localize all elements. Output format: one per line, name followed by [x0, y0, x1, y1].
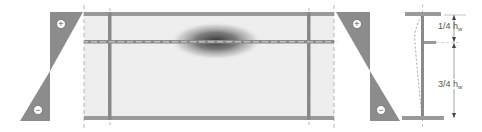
dimension-upper: 1/4 hw: [438, 15, 466, 42]
minus-sign-icon: −: [34, 105, 43, 115]
svg-text:+: +: [354, 19, 359, 29]
dimension-lower: 3/4 hw: [437, 43, 465, 118]
section-top-flange: [405, 12, 441, 16]
girder-diagram: + − + −: [0, 0, 482, 132]
web-panel: [82, 5, 338, 128]
buckled-web-shape: [415, 16, 422, 116]
minus-sign-icon: −: [377, 105, 386, 115]
top-flange: [84, 12, 334, 16]
left-stress-tension-area: [50, 12, 83, 71]
right-stress-diagram: + −: [336, 12, 400, 121]
bottom-flange: [84, 116, 334, 120]
plus-sign-icon: +: [353, 19, 362, 29]
svg-text:−: −: [378, 105, 383, 115]
svg-text:−: −: [35, 105, 40, 115]
right-stress-compression-area: [370, 71, 400, 121]
section-bottom-flange: [402, 116, 444, 120]
dim-upper-label: 1/4 hw: [438, 21, 463, 32]
girder-cross-section: 1/4 hw 3/4 hw: [402, 4, 466, 128]
plus-sign-icon: +: [57, 19, 66, 29]
right-stress-tension-area: [336, 12, 370, 71]
left-stress-diagram: + −: [20, 12, 83, 121]
section-longitudinal-stiffener: [424, 41, 436, 44]
svg-text:+: +: [58, 19, 63, 29]
